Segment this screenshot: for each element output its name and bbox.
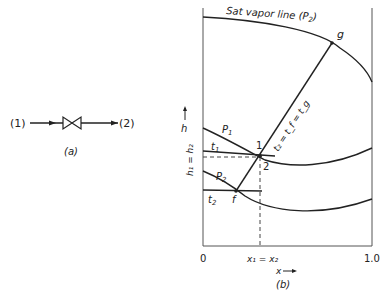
outlet-arrow-icon [111, 121, 118, 126]
sat-vapor-line [203, 17, 372, 82]
x-axis-arrow-icon [292, 269, 297, 273]
inlet-arrow-icon [49, 121, 56, 126]
caption-b: (b) [276, 279, 290, 290]
quality-equality-label: x₁ = x₂ [246, 254, 279, 264]
y-axis-arrow-icon [183, 106, 187, 111]
isobar-p2-label: P2 [216, 171, 227, 184]
inlet-label: (1) [10, 117, 26, 130]
x-tick-1: 1.0 [364, 253, 380, 264]
valve-right-icon [72, 117, 81, 129]
tie-line [236, 43, 332, 191]
point-f-marker [234, 189, 238, 193]
point-g-label: g [337, 28, 344, 41]
throttling-diagram: (1) (2) (a) Sat vapor line (P2) g t₂ = t… [0, 0, 387, 296]
isotherm-t2-label: t2 [208, 194, 217, 207]
enthalpy-equality-label: h₁ = h₂ [185, 144, 195, 176]
point-f-label: f [232, 194, 237, 205]
outlet-label: (2) [119, 117, 135, 130]
point-1-2-marker [258, 154, 262, 158]
isotherm-t2 [203, 190, 262, 191]
x-tick-0: 0 [200, 253, 206, 264]
caption-a: (a) [64, 146, 78, 157]
isobar-p1-label: P1 [222, 124, 233, 137]
x-axis-label: x [275, 266, 282, 276]
sat-vapor-label: Sat vapor line (P2) [226, 5, 318, 24]
hx-chart: Sat vapor line (P2) g t₂ = t_f = t_g P1 … [181, 5, 380, 290]
valve-left-icon [63, 117, 72, 129]
point-2-label: 2 [263, 161, 269, 172]
valve-schematic: (1) (2) (a) [10, 117, 135, 157]
point-1-label: 1 [256, 140, 262, 151]
y-axis-label: h [181, 123, 187, 134]
